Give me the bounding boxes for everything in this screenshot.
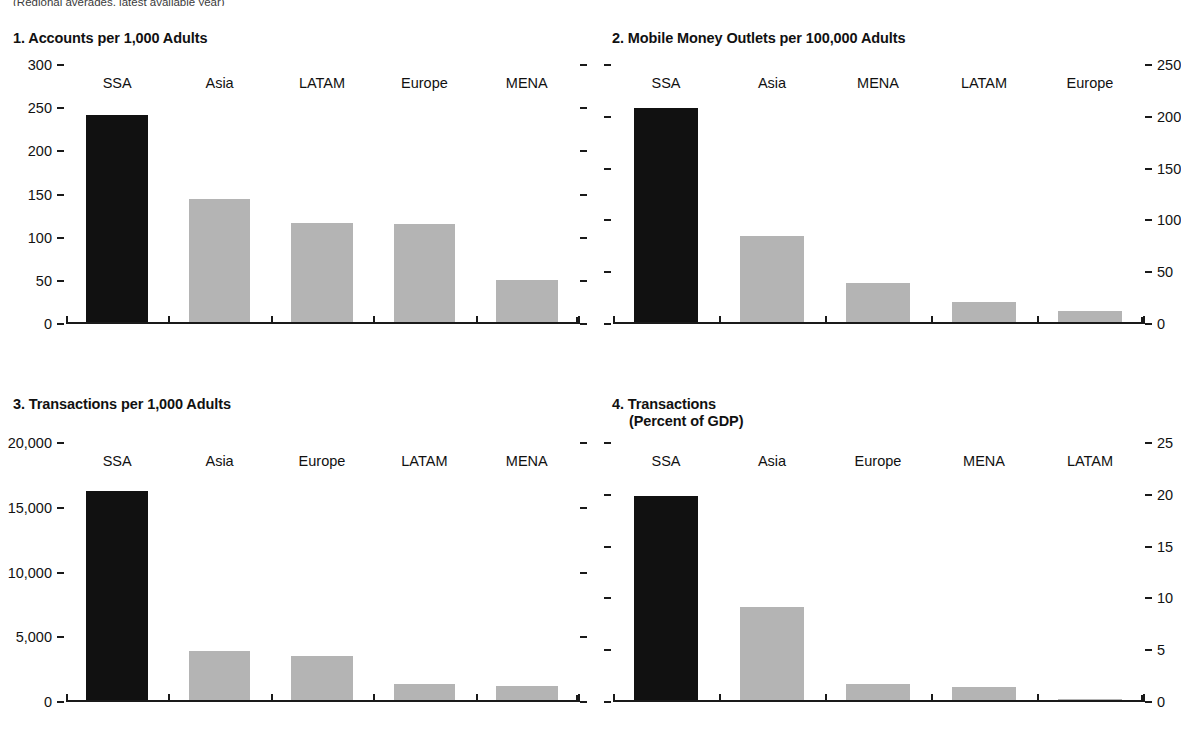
- x-axis-label-asia: Asia: [719, 453, 825, 469]
- y-axis-label: 0: [1157, 695, 1165, 709]
- y-tick-right: [1145, 649, 1152, 651]
- y-tick-right: [1145, 597, 1152, 599]
- y-axis-label: 15: [1157, 540, 1173, 554]
- y-tick-left: [604, 597, 611, 599]
- bar-mena: [952, 687, 1016, 700]
- y-tick-left: [604, 649, 611, 651]
- chart-subtitle-4: (Percent of GDP): [612, 413, 743, 430]
- x-axis-line: [613, 700, 1143, 702]
- y-tick-left: [604, 494, 611, 496]
- y-tick-left: [604, 546, 611, 548]
- y-tick-left: [604, 701, 611, 703]
- y-tick-right: [1145, 442, 1152, 444]
- y-tick-right: [1145, 546, 1152, 548]
- x-axis-label-latam: LATAM: [1037, 453, 1143, 469]
- x-axis-label-ssa: SSA: [613, 453, 719, 469]
- chart-title-4: 4. Transactions(Percent of GDP): [612, 396, 743, 430]
- x-tick: [931, 694, 933, 702]
- x-tick: [613, 694, 615, 702]
- bar-asia: [740, 607, 804, 700]
- bar-latam: [1058, 699, 1122, 700]
- x-axis-label-europe: Europe: [825, 453, 931, 469]
- chart-panel-4: 4. Transactions(Percent of GDP)051015202…: [0, 0, 1181, 755]
- y-tick-right: [1145, 701, 1152, 703]
- bar-europe: [846, 684, 910, 700]
- x-tick: [1143, 694, 1145, 702]
- y-axis-label: 10: [1157, 591, 1173, 605]
- figure-root: (Regional averages, latest available yea…: [0, 0, 1181, 755]
- bar-ssa: [634, 496, 698, 700]
- y-axis-label: 20: [1157, 488, 1173, 502]
- x-tick: [719, 694, 721, 702]
- x-axis-label-mena: MENA: [931, 453, 1037, 469]
- x-tick: [825, 694, 827, 702]
- plot-area-4: 0510152025SSAAsiaEuropeMENALATAM: [613, 443, 1143, 702]
- y-axis-label: 25: [1157, 436, 1173, 450]
- y-tick-right: [1145, 494, 1152, 496]
- y-tick-left: [604, 442, 611, 444]
- x-tick: [1037, 694, 1039, 702]
- y-axis-label: 5: [1157, 643, 1165, 657]
